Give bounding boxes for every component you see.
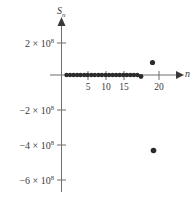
x-axis-arrow-icon — [176, 71, 184, 79]
xtick-label-5: 5 — [78, 83, 98, 93]
data-points — [64, 60, 156, 153]
data-point-n20 — [151, 148, 157, 154]
xtick-label-15: 15 — [114, 83, 134, 93]
ytick-label-neg4e8: −4 × 108 — [2, 140, 54, 151]
ytick-label-2e8: 2 × 108 — [2, 38, 54, 49]
axes-group — [50, 17, 184, 192]
y-axis-label: Sn — [57, 6, 66, 19]
x-axis-label: n — [185, 69, 190, 79]
data-point-n19 — [150, 60, 155, 65]
xtick-label-10: 10 — [96, 83, 116, 93]
ytick-label-neg2e8: −2 × 108 — [2, 105, 54, 116]
data-point-n18 — [139, 74, 144, 79]
plot-canvas — [0, 0, 194, 200]
scatter-plot: 2 × 108 −2 × 108 −4 × 108 −6 × 108 5 10 … — [0, 0, 194, 200]
xtick-label-20: 20 — [149, 83, 169, 93]
ytick-label-neg6e8: −6 × 108 — [2, 175, 54, 186]
